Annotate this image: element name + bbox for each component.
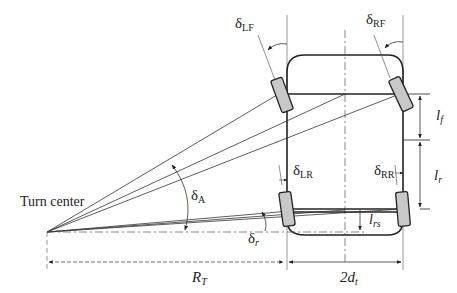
lr-label: lr: [434, 167, 442, 185]
lf-label: lf: [436, 107, 444, 125]
track-width-label: 2dt: [340, 269, 358, 287]
turn-center-label: Turn center: [20, 194, 85, 209]
delta-lr-label: δLR: [293, 162, 313, 180]
delta-r-arc: [262, 212, 266, 231]
wheel-left-front: [271, 77, 294, 113]
delta-r-label: δr: [248, 230, 259, 248]
delta-rf-arc: [385, 42, 403, 48]
rt-label: RT: [191, 269, 208, 287]
lrs-label: lrs: [369, 212, 381, 229]
delta-lf-label: δLF: [235, 15, 254, 33]
delta-a-label: δA: [191, 187, 206, 205]
delta-rf-label: δRF: [366, 11, 386, 29]
turn-rays: [47, 92, 402, 232]
wheel-left-rear: [279, 191, 296, 226]
delta-rr-label: δRR: [374, 162, 395, 180]
steering-geometry-diagram: Turn center δLF δRF δLR δRR δA δr lf lr …: [0, 0, 457, 293]
wheel-right-rear: [396, 192, 411, 227]
delta-lf-arc: [268, 44, 287, 50]
